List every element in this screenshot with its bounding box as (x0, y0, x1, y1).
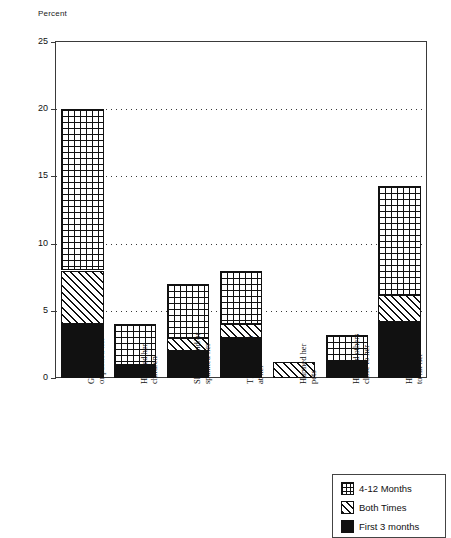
bar-segment (61, 109, 103, 270)
bar-stack (167, 42, 209, 378)
y-axis-title: Percent (38, 9, 67, 18)
bar-stack (114, 42, 156, 378)
bar-stack (220, 42, 262, 378)
grid-swatch-icon (341, 482, 354, 495)
x-category-label: Threw objects at her (246, 336, 265, 384)
legend-label-2: First 3 months (359, 521, 419, 532)
hatch-swatch-icon (341, 501, 354, 514)
bar-stack (378, 42, 420, 378)
legend-label-1: Both Times (359, 502, 407, 513)
x-category-label: Harmed her children (140, 344, 159, 384)
legend: 4-12 Months Both Times First 3 months (332, 474, 446, 538)
x-category-label: Slapped and/or spanked her (193, 333, 212, 384)
y-tick-label: 0 (26, 372, 48, 382)
legend-item-1[interactable]: Both Times (341, 501, 407, 514)
y-tick-label: 5 (26, 305, 48, 315)
bar-segment (167, 284, 209, 338)
bar-segment (220, 271, 262, 325)
x-category-label: Harmed others close to her (352, 334, 371, 384)
solid-swatch-icon (341, 520, 354, 533)
y-tick-label: 25 (26, 36, 48, 46)
bar-segment (61, 271, 103, 325)
legend-label-0: 4-12 Months (359, 483, 412, 494)
y-tick-mark (51, 378, 56, 379)
x-category-label: Harmed her pets (299, 344, 318, 384)
legend-item-0[interactable]: 4-12 Months (341, 482, 412, 495)
bar-segment (378, 295, 420, 322)
bar-segment (378, 186, 420, 295)
x-category-label: Hit or tried to hit her (405, 346, 424, 384)
bar-stack (326, 42, 368, 378)
y-tick-label: 15 (26, 170, 48, 180)
bar-stack (273, 42, 315, 378)
y-tick-label: 20 (26, 103, 48, 113)
stacked-bar-chart: Percent 0510152025 Grabbed, shoved, or p… (0, 0, 451, 538)
legend-item-2[interactable]: First 3 months (341, 520, 419, 533)
y-tick-label: 10 (26, 238, 48, 248)
x-category-label: Grabbed, shoved, or pushed her (87, 324, 106, 384)
bars-layer (56, 42, 426, 378)
